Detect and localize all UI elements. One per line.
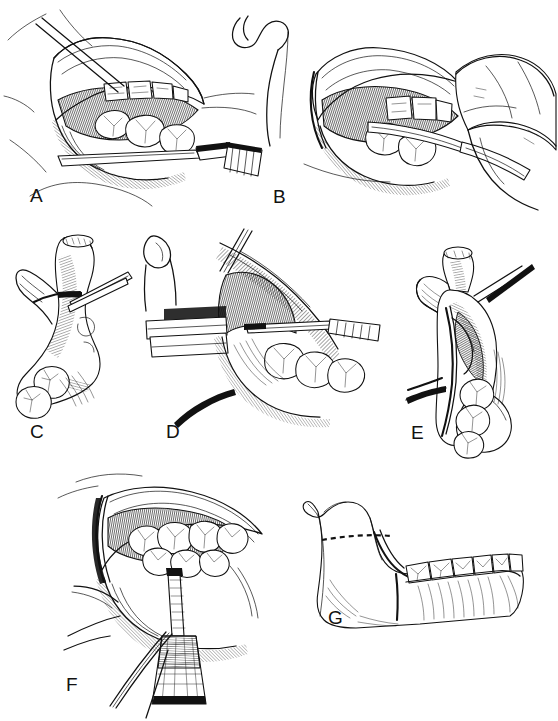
molars-c [16, 367, 69, 419]
panel-c [8, 228, 148, 438]
panel-g-artwork [300, 478, 558, 658]
maxillary-teeth-b [386, 96, 452, 122]
panel-d [134, 225, 384, 440]
surgical-handpiece-f [152, 568, 206, 704]
panel-b [218, 0, 558, 215]
panel-label-g: G [328, 608, 343, 627]
panel-f-artwork [50, 468, 310, 718]
illustration-plate: A [0, 0, 558, 721]
instrument-e [474, 264, 535, 303]
coronoid-outline-d [144, 236, 176, 311]
periosteal-elevator [36, 18, 124, 92]
molars-d [265, 344, 365, 393]
panel-c-artwork [8, 228, 148, 438]
panel-f [50, 468, 310, 718]
condyle-coronoid-outline [233, 16, 289, 146]
panel-label-f: F [66, 675, 78, 694]
panel-label-b: B [273, 187, 286, 206]
panel-d-artwork [134, 225, 384, 440]
panel-g [300, 478, 558, 658]
panel-label-c: C [30, 422, 44, 441]
mandibular-teeth-f [129, 521, 248, 577]
panel-b-artwork [218, 0, 558, 215]
panel-label-d: D [166, 422, 180, 441]
surgeon-hand [456, 54, 556, 210]
panel-label-a: A [30, 186, 43, 205]
panel-label-e: E [411, 423, 424, 442]
